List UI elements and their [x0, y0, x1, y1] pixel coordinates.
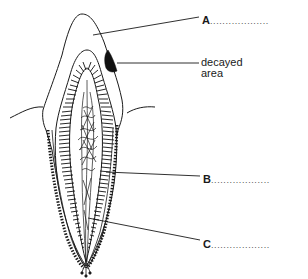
gum-line-left	[10, 107, 43, 118]
gum-line-right	[127, 107, 155, 113]
label-b-letter: B	[203, 173, 211, 185]
label-b-answer-line: ...................	[211, 175, 270, 185]
label-decayed-line2: area	[201, 68, 243, 79]
leader-line-b	[106, 172, 200, 176]
label-b: B...................	[203, 169, 270, 187]
label-c-answer-line: ...................	[211, 240, 270, 250]
label-a-letter: A	[202, 14, 210, 26]
label-c-letter: C	[203, 238, 211, 250]
label-a: A...................	[202, 10, 269, 28]
decayed-area	[105, 50, 117, 72]
label-a-answer-line: ...................	[210, 16, 269, 26]
label-decayed-area: decayed area	[201, 57, 243, 79]
label-c: C...................	[203, 234, 270, 252]
leader-line-c	[88, 218, 200, 240]
leader-line-a	[93, 17, 199, 35]
